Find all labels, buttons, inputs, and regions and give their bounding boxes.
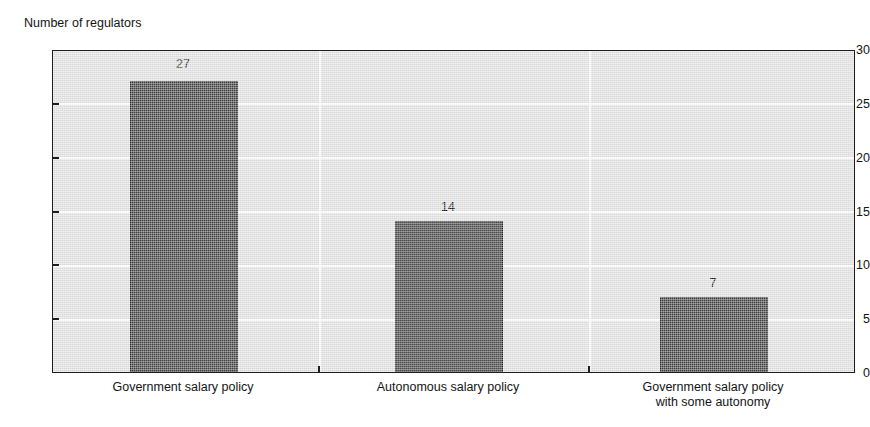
category-separator-2 <box>589 51 591 372</box>
value-label-bar-1: 27 <box>176 58 190 71</box>
bar-government-salary-policy <box>130 81 238 372</box>
category-separator-1 <box>319 51 321 372</box>
y-tick-mark-5 <box>52 318 59 320</box>
bar-government-salary-policy-with-autonomy <box>660 297 768 372</box>
bar-autonomous-salary-policy <box>395 221 503 372</box>
x-tick-mark-1 <box>318 366 320 373</box>
bar-chart-figure: Number of regulators 30 25 20 15 10 5 0 … <box>0 0 870 427</box>
y-tick-mark-25 <box>52 103 59 105</box>
y-tick-mark-10 <box>52 264 59 266</box>
value-label-bar-3: 7 <box>710 277 717 290</box>
y-tick-mark-20 <box>52 157 59 159</box>
plot-area <box>52 50 855 373</box>
y-axis-title: Number of regulators <box>24 16 141 30</box>
category-label-1: Government salary policy <box>112 380 253 395</box>
y-tick-mark-15 <box>52 211 59 213</box>
x-tick-mark-2 <box>588 366 590 373</box>
category-label-2: Autonomous salary policy <box>377 380 519 395</box>
category-label-3: Government salary policy with some auton… <box>642 380 783 410</box>
